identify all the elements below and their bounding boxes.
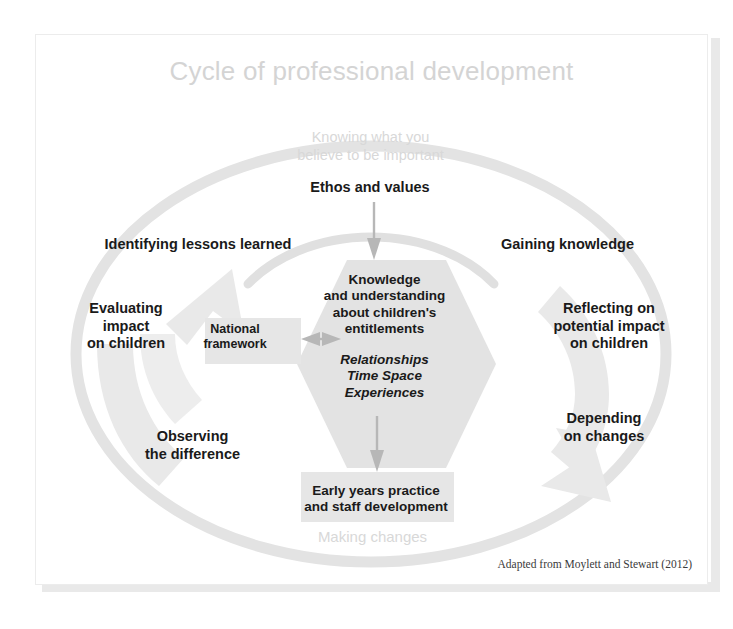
centre-hexagon-heading: Knowledge and understanding about childr… <box>312 272 457 338</box>
source-attribution: Adapted from Moylett and Stewart (2012) <box>330 558 692 570</box>
stage-label-ethos-and-values: Ethos and values <box>290 179 450 197</box>
ethos-to-hexagon-arrow <box>367 202 381 260</box>
stage-label-reflecting-on-potential-impact: Reflecting on potential impact on childr… <box>534 300 684 353</box>
stage-label-identifying-lessons-learned: Identifying lessons learned <box>78 236 318 254</box>
stage-label-gaining-knowledge: Gaining knowledge <box>460 236 675 254</box>
figure-page: Cycle of professional development Knowin… <box>0 0 733 629</box>
centre-hexagon-subheading: Relationships Time Space Experiences <box>312 352 457 401</box>
early-years-practice-label: Early years practice and staff developme… <box>296 483 456 516</box>
stage-label-depending-on-changes: Depending on changes <box>534 410 674 445</box>
national-framework-label: National framework <box>198 322 272 353</box>
page-title: Cycle of professional development <box>35 56 708 87</box>
phase-label-making-changes: Making changes <box>290 528 455 546</box>
stage-label-evaluating-impact-on-children: Evaluating impact on children <box>66 300 186 353</box>
page-shadow-right <box>711 38 720 590</box>
phase-label-knowing: Knowing what you believe to be important <box>268 129 473 164</box>
stage-label-observing-the-difference: Observing the difference <box>120 428 265 463</box>
